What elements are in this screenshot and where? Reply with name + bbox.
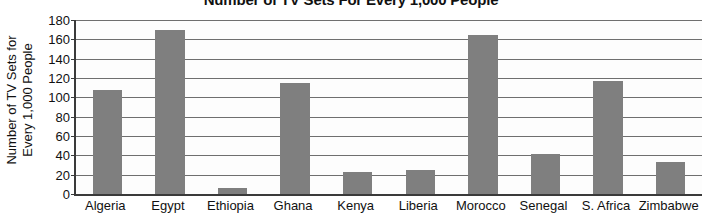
y-axis-tick-label: 40	[36, 149, 70, 162]
bar-ghana	[280, 83, 309, 194]
y-axis-tick-label: 100	[36, 91, 70, 104]
y-axis-tick-labels: 020406080100120140160180	[36, 0, 70, 217]
bar-cell	[326, 20, 389, 194]
bar-s-africa	[593, 81, 622, 194]
x-axis-tick-label: S. Africa	[575, 198, 638, 214]
y-axis-title-line-2: Every 1,000 People	[20, 35, 36, 164]
y-axis-tick-label: 140	[36, 52, 70, 65]
bar-morocco	[468, 35, 497, 195]
x-axis-tick-labels: AlgeriaEgyptEthiopiaGhanaKenyaLiberiaMor…	[74, 198, 700, 214]
bar-cell	[639, 20, 702, 194]
bar-zimbabwe	[656, 162, 685, 194]
y-axis-title-line-1: Number of TV Sets for	[4, 35, 20, 164]
x-axis-tick-label: Algeria	[74, 198, 137, 214]
x-axis-tick-label: Ghana	[262, 198, 325, 214]
bar-egypt	[155, 30, 184, 194]
bar-cell	[76, 20, 139, 194]
bar-cell	[452, 20, 515, 194]
x-axis-tick-label: Kenya	[324, 198, 387, 214]
bar-cell	[201, 20, 264, 194]
bar-cell	[139, 20, 202, 194]
bar-ethiopia	[218, 188, 247, 194]
plot-area	[74, 20, 702, 196]
y-axis-tick-label: 60	[36, 130, 70, 143]
x-axis-tick-label: Senegal	[512, 198, 575, 214]
chart-title: Number of TV Sets For Every 1,000 People	[0, 0, 702, 8]
y-axis-tick-label: 180	[36, 14, 70, 27]
x-axis-tick-label: Egypt	[137, 198, 200, 214]
bar-chart: Number of TV Sets For Every 1,000 People…	[0, 0, 702, 217]
bar-cell	[514, 20, 577, 194]
y-axis-tick-label: 0	[36, 188, 70, 201]
x-axis-tick-label: Liberia	[387, 198, 450, 214]
x-axis-tick-label: Ethiopia	[199, 198, 262, 214]
bar-senegal	[531, 154, 560, 194]
bar-liberia	[406, 170, 435, 194]
x-axis-tick-label: Morocco	[450, 198, 513, 214]
bar-cell	[577, 20, 640, 194]
y-axis-tick-label: 120	[36, 72, 70, 85]
bar-kenya	[343, 172, 372, 194]
y-axis-tickmark	[71, 194, 76, 195]
bar-cell	[264, 20, 327, 194]
bar-cell	[389, 20, 452, 194]
bar-series	[76, 20, 702, 194]
y-axis-tick-label: 80	[36, 110, 70, 123]
bar-algeria	[93, 90, 122, 194]
y-axis-tick-label: 160	[36, 33, 70, 46]
x-axis-tick-label: Zimbabwe	[637, 198, 700, 214]
y-axis-tick-label: 20	[36, 168, 70, 181]
y-axis-title: Number of TV Sets for Every 1,000 People	[0, 0, 40, 200]
